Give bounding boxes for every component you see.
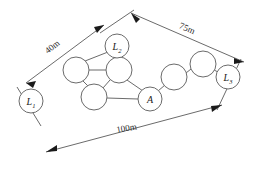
anchor-node-l3[interactable]: L3 [216, 65, 240, 89]
node-n2[interactable] [106, 57, 132, 83]
edge-n1-n3 [83, 81, 88, 86]
edge-n2-a [127, 80, 143, 91]
extension-tick-l2 [100, 10, 134, 33]
edge-n2-n3 [103, 80, 110, 88]
node-n4[interactable] [161, 64, 187, 90]
node-n1[interactable] [63, 57, 89, 83]
node-n3[interactable] [81, 84, 107, 110]
dimension-line-75m [131, 13, 244, 64]
dim-100m-arrow-start [46, 145, 57, 152]
diagram-canvas: L1 L2 L3 A 40m 75m 100m [0, 0, 254, 174]
network-localization-diagram: L1 L2 L3 A 40m 75m 100m [0, 0, 254, 174]
dimension-label-100m: 100m [116, 121, 138, 134]
node-n5[interactable] [190, 51, 216, 77]
target-a-label: A [146, 94, 154, 105]
edge-n4-n5 [186, 69, 191, 73]
dimension-label-40m: 40m [43, 38, 62, 56]
dimension-line-40m [26, 25, 104, 88]
dimension-label-75m: 75m [178, 21, 197, 36]
target-node-a[interactable]: A [138, 87, 162, 111]
dim-75m-line [131, 13, 244, 62]
anchor-node-l2[interactable]: L2 [105, 34, 129, 58]
dim-100m-arrow-end [211, 105, 222, 112]
edge-n1-l2 [85, 52, 108, 61]
edge-n3-a [107, 98, 138, 99]
anchor-node-l1[interactable]: L1 [19, 89, 43, 113]
